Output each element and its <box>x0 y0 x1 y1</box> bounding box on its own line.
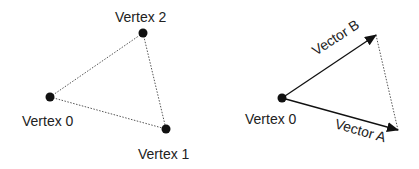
edge-b-a <box>376 35 398 130</box>
edge-v2-v1 <box>143 33 166 129</box>
vertex-0-point-right <box>278 94 287 103</box>
vector-b-label: Vector B <box>309 16 362 58</box>
edge-v0-v2 <box>50 33 143 97</box>
vertex-1-label: Vertex 1 <box>138 146 190 162</box>
vertex-0-label-right: Vertex 0 <box>245 111 297 127</box>
vertex-0-point <box>46 93 55 102</box>
vertex-2-label: Vertex 2 <box>115 9 167 25</box>
vertex-2-point <box>139 29 148 38</box>
left-triangle: Vertex 2 Vertex 0 Vertex 1 <box>22 9 190 162</box>
triangle-vector-diagram: Vertex 2 Vertex 0 Vertex 1 Vertex 0 Vect… <box>0 0 419 169</box>
vertex-0-label: Vertex 0 <box>22 113 74 129</box>
vertex-1-point <box>162 125 171 134</box>
right-vectors: Vertex 0 Vector B Vector A <box>245 16 398 145</box>
